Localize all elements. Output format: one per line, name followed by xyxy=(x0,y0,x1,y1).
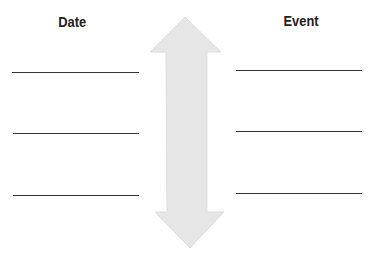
double-headed-arrow-icon xyxy=(0,0,377,259)
